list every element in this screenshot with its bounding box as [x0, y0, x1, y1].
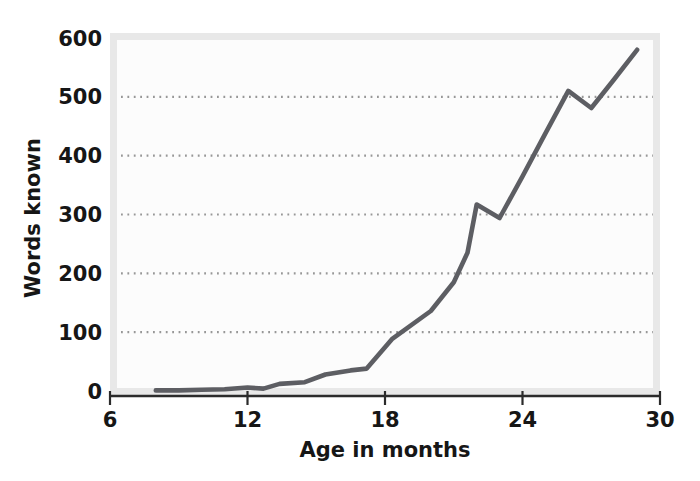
y-tick-label: 100 — [58, 321, 102, 345]
y-axis-title: Words known — [21, 138, 45, 298]
y-tick-label: 400 — [58, 144, 102, 168]
y-tick-label: 500 — [58, 85, 102, 109]
y-tick-label: 200 — [58, 262, 102, 286]
x-tick-label: 12 — [233, 408, 262, 432]
y-tick-label: 0 — [87, 380, 102, 404]
y-tick-label: 300 — [58, 203, 102, 227]
y-tick-labels: 0100200300400500600 — [58, 27, 102, 404]
x-tick-label: 24 — [508, 408, 537, 432]
x-tick-labels: 612182430 — [103, 408, 675, 432]
x-axis-title: Age in months — [299, 438, 470, 462]
vocabulary-growth-figure: 0100200300400500600 612182430 Age in mon… — [0, 0, 700, 481]
vocabulary-growth-chart: 0100200300400500600 612182430 Age in mon… — [0, 0, 700, 481]
x-tick-label: 18 — [370, 408, 399, 432]
x-tick-label: 30 — [645, 408, 674, 432]
x-tick-label: 6 — [103, 408, 118, 432]
y-tick-label: 600 — [58, 27, 102, 51]
